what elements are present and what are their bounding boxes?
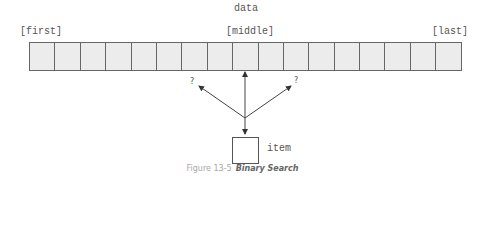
right-question-label: ? — [294, 76, 298, 85]
left-question-label: ? — [190, 77, 194, 86]
item-box — [232, 137, 259, 164]
caption-title: Binary Search — [236, 164, 299, 173]
left-arrow-icon — [199, 86, 245, 118]
caption-number: Figure 13-5 — [187, 164, 232, 173]
figure-caption: Figure 13-5Binary Search — [0, 164, 485, 173]
item-label: item — [267, 143, 291, 154]
right-arrow-icon — [245, 86, 291, 118]
